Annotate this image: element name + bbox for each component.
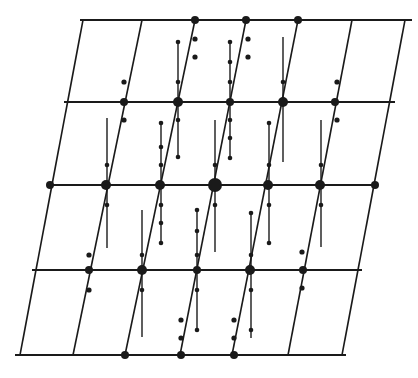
lattice-node-spot xyxy=(299,266,307,274)
streak-spot xyxy=(213,163,218,168)
satellite-spot xyxy=(178,317,183,322)
streak-spot xyxy=(281,80,286,85)
streak-spot xyxy=(195,328,200,333)
streak-spot xyxy=(140,288,145,293)
streak-spot xyxy=(319,163,324,168)
streak-spot xyxy=(159,203,164,208)
streak-spot xyxy=(105,163,110,168)
streak-spot xyxy=(140,253,145,258)
streak-spot xyxy=(159,145,164,150)
streak-spot xyxy=(195,208,200,213)
streak-spot xyxy=(105,203,110,208)
streak-spot xyxy=(228,60,233,65)
streak-spot xyxy=(249,328,254,333)
lattice-node-spot xyxy=(263,180,273,190)
streak-spot xyxy=(176,80,181,85)
streak-spot xyxy=(159,163,164,168)
streak-spot xyxy=(228,156,233,161)
lattice-node-spot xyxy=(46,181,54,189)
lattice-node-spot xyxy=(245,265,255,275)
satellite-spot xyxy=(192,54,197,59)
streak-spot xyxy=(267,241,272,246)
diagram-canvas xyxy=(0,0,418,378)
satellite-spot xyxy=(334,117,339,122)
streak-spot xyxy=(267,163,272,168)
streak-spot xyxy=(249,211,254,216)
streak-spot xyxy=(159,241,164,246)
streak-spot xyxy=(319,203,324,208)
lattice-node-spot xyxy=(315,180,325,190)
reciprocal-lattice-diagram xyxy=(0,0,418,378)
lattice-node-spot xyxy=(137,265,147,275)
lattice-node-spot xyxy=(101,180,111,190)
satellite-spot xyxy=(299,285,304,290)
lattice-node-spot xyxy=(242,16,250,24)
satellite-spot xyxy=(178,335,183,340)
streak-spot xyxy=(228,118,233,123)
streak-spot xyxy=(176,155,181,160)
streak-spot xyxy=(176,118,181,123)
streak-spot xyxy=(176,40,181,45)
satellite-spot xyxy=(231,317,236,322)
streak-spot xyxy=(267,203,272,208)
lattice-node-spot xyxy=(193,266,201,274)
lattice-node-spot xyxy=(331,98,339,106)
streak-spot xyxy=(159,121,164,126)
lattice-node-spot xyxy=(120,98,128,106)
streak-spot xyxy=(228,40,233,45)
streak-spot xyxy=(249,253,254,258)
lattice-node-spot xyxy=(208,178,222,192)
streak-spot xyxy=(249,288,254,293)
lattice-node-spots xyxy=(46,16,379,359)
lattice-node-spot xyxy=(121,351,129,359)
lattice-node-spot xyxy=(226,98,234,106)
lattice-node-spot xyxy=(294,16,302,24)
lattice-node-spot xyxy=(278,97,288,107)
satellite-spot xyxy=(334,79,339,84)
lattice-node-spot xyxy=(191,16,199,24)
satellite-spot xyxy=(299,249,304,254)
lattice-node-spot xyxy=(177,351,185,359)
lattice-node-spot xyxy=(173,97,183,107)
satellite-spot xyxy=(245,54,250,59)
satellite-spot xyxy=(231,335,236,340)
satellite-spot xyxy=(86,287,91,292)
streak-spot xyxy=(195,253,200,258)
lattice-node-spot xyxy=(155,180,165,190)
streak-spot xyxy=(159,221,164,226)
lattice-node-spot xyxy=(371,181,379,189)
satellite-spot xyxy=(86,252,91,257)
streak-spot xyxy=(228,136,233,141)
lattice-node-spot xyxy=(230,351,238,359)
streak-spot xyxy=(267,121,272,126)
lattice-node-spot xyxy=(85,266,93,274)
streak-spot xyxy=(213,203,218,208)
satellite-spot xyxy=(245,36,250,41)
streak-spot xyxy=(195,229,200,234)
satellite-spot xyxy=(192,36,197,41)
streak-spot xyxy=(195,288,200,293)
satellite-spot xyxy=(121,117,126,122)
satellite-spot xyxy=(121,79,126,84)
streak-spot xyxy=(228,80,233,85)
